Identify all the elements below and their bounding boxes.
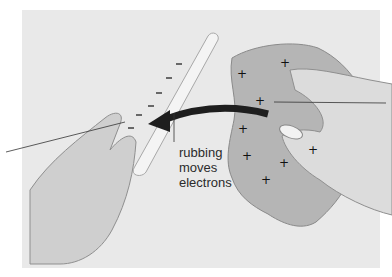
illustration: + + + + + + + + rubbing moves electrons	[0, 0, 392, 277]
svg-text:+: +	[237, 67, 247, 81]
svg-text:+: +	[279, 156, 289, 170]
svg-text:+: +	[308, 143, 318, 157]
label-electrons: electrons	[179, 175, 232, 190]
svg-text:+: +	[242, 149, 252, 163]
drawing: + + + + + + + +	[0, 0, 392, 277]
left-hand	[30, 113, 136, 264]
svg-text:+: +	[280, 56, 290, 70]
svg-text:+: +	[261, 173, 271, 187]
svg-text:+: +	[255, 94, 265, 108]
label-rubbing: rubbing	[179, 145, 222, 160]
label-moves: moves	[179, 160, 217, 175]
svg-text:+: +	[238, 122, 248, 136]
